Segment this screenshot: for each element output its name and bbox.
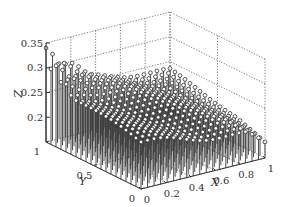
- stem-marker: [183, 77, 187, 81]
- x-axis-label: X: [210, 176, 220, 189]
- stem-marker: [203, 93, 207, 97]
- stem-marker: [173, 70, 177, 74]
- stem-marker: [188, 81, 192, 85]
- stem-marker: [204, 119, 208, 123]
- stem-marker: [112, 101, 116, 105]
- stem-marker: [130, 101, 134, 105]
- stem-marker: [124, 128, 128, 132]
- stem-marker: [107, 97, 111, 101]
- stem-marker: [159, 136, 163, 140]
- stem-marker: [90, 86, 94, 90]
- stem-marker: [74, 99, 78, 103]
- x-tick: [189, 175, 191, 177]
- stem-marker: [187, 87, 191, 91]
- stem-marker: [71, 85, 75, 89]
- stem-marker: [82, 93, 86, 97]
- stem-marker: [79, 79, 83, 83]
- stem-marker: [198, 139, 202, 143]
- stem-marker: [227, 124, 231, 128]
- stem-marker: [197, 95, 201, 99]
- stem-marker: [171, 106, 175, 110]
- stem-marker: [95, 93, 99, 97]
- stem-marker: [128, 107, 132, 111]
- stem-marker: [196, 126, 200, 130]
- stem-marker: [75, 70, 79, 74]
- stem-marker: [140, 109, 144, 113]
- stem-marker: [159, 79, 163, 83]
- stem-marker: [111, 81, 115, 85]
- stem-marker: [166, 103, 170, 107]
- stem-marker: [185, 137, 189, 141]
- stem-marker: [131, 127, 135, 131]
- stem-marker: [153, 106, 157, 110]
- stem-marker: [217, 136, 221, 140]
- stem-marker: [156, 96, 160, 100]
- stem-marker: [167, 71, 171, 75]
- stem-marker: [139, 90, 143, 94]
- stem-marker: [136, 99, 140, 103]
- stem-marker: [105, 102, 109, 106]
- stem-marker: [230, 133, 234, 137]
- stem-marker: [146, 107, 150, 111]
- stem-marker: [174, 116, 178, 120]
- stem-marker: [181, 114, 185, 118]
- stem-marker: [220, 125, 224, 129]
- stem-marker: [110, 86, 114, 90]
- stem-marker: [142, 73, 146, 77]
- stem-marker: [128, 87, 132, 91]
- stem3-chart: 0.20.250.30.3500.20.40.60.8100.51 X Y Z: [0, 0, 282, 207]
- stem-marker: [99, 111, 103, 115]
- stem-marker: [137, 126, 141, 130]
- stem-marker: [149, 97, 153, 101]
- stem-marker: [94, 109, 98, 113]
- stem-marker: [77, 88, 81, 92]
- stem-marker: [164, 108, 168, 112]
- stem-marker: [123, 84, 127, 88]
- stem-marker: [141, 134, 145, 138]
- stem-marker: [142, 130, 146, 134]
- stem-marker: [214, 126, 218, 130]
- stem-marker: [117, 105, 121, 109]
- stem-marker: [149, 129, 153, 133]
- x-tick-label: 0: [144, 194, 150, 205]
- stem-marker: [129, 132, 133, 136]
- stem-marker: [172, 75, 176, 79]
- stem-marker: [113, 95, 117, 99]
- stem-marker: [201, 130, 205, 134]
- stem-marker: [202, 124, 206, 128]
- stem-marker: [168, 67, 172, 71]
- stem-marker: [147, 133, 151, 137]
- stem-marker: [197, 120, 201, 124]
- stem-marker: [150, 117, 154, 121]
- stem-marker: [134, 136, 138, 140]
- stem-marker: [184, 105, 188, 109]
- stem-marker: [184, 124, 188, 128]
- stem-marker: [212, 132, 216, 136]
- stem-marker: [172, 136, 176, 140]
- stem-marker: [189, 108, 193, 112]
- stem-marker: [120, 93, 124, 97]
- stem-marker: [165, 77, 169, 81]
- stem-marker: [69, 65, 73, 69]
- stem-marker: [217, 117, 221, 121]
- stem-marker: [121, 120, 125, 124]
- stem-marker: [187, 113, 191, 117]
- stem-marker: [97, 86, 101, 90]
- stem-marker: [192, 91, 196, 95]
- stem-marker: [154, 132, 158, 136]
- stem-series: [44, 46, 267, 189]
- stem-marker: [210, 118, 214, 122]
- stem-marker: [219, 130, 223, 134]
- stem-marker: [89, 106, 93, 110]
- stem-marker: [199, 115, 203, 119]
- stem-marker: [118, 99, 122, 103]
- stem-marker: [155, 69, 159, 73]
- stem-marker: [177, 106, 181, 110]
- stem-marker: [191, 122, 195, 126]
- stem-marker: [80, 73, 84, 77]
- stem-marker: [198, 89, 202, 93]
- stem-marker: [85, 81, 89, 85]
- stem-marker: [87, 75, 91, 79]
- stem-marker: [194, 132, 198, 136]
- stem-marker: [100, 98, 104, 102]
